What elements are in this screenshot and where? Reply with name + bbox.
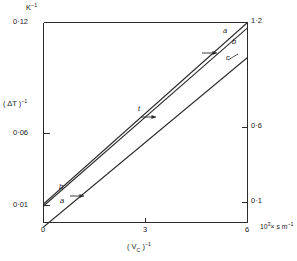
left-axis-ticks [44,23,50,206]
bottom-axis-ticks [44,218,248,223]
series-label-c-top: c [226,54,230,62]
bottom-unit-base: 10 [260,223,268,230]
bottom-tick-label-3: 3 [143,226,147,234]
top-unit-exp: −1 [31,2,37,8]
series-line-c [44,58,248,228]
series-label-mid: t [138,105,140,113]
series-label-a-top: a [223,27,227,35]
top-unit-label: K−1 [26,4,37,12]
series-label-a-low: a [60,197,64,205]
figure-chart-container: K−1 0·12 0·06 0·01 ( ΔT )−1 1·2 0·6 0·1 … [0,0,297,261]
bottom-unit-rest: × s m [271,223,288,230]
left-axis-title-exp: −1 [21,98,27,104]
bottom-axis-title: ( VC )−1 [127,243,151,251]
left-tick-label-001: 0·01 [13,201,28,209]
bottom-unit-label: 103× s m−1 [260,224,294,231]
bottom-tick-label-6: 6 [245,226,249,234]
bottom-tick-label-0: 0 [41,226,45,234]
series-line-a [44,23,248,205]
left-axis-title-open: ( ΔT ) [3,99,21,108]
left-tick-label-012: 0·12 [13,18,28,26]
chart-svg [0,0,297,261]
right-tick-label-12: 1·2 [251,17,262,25]
right-tick-label-01: 0·1 [251,197,262,205]
series-label-b-low: b [59,183,63,191]
series-label-b-top: b [232,38,236,46]
bottom-axis-title-exp: −1 [145,241,151,247]
left-axis-title: ( ΔT )−1 [3,100,27,108]
right-axis-ticks [242,23,248,203]
bottom-axis-title-open: ( V [127,242,137,251]
right-tick-label-06: 0·6 [251,122,262,130]
bottom-unit-rest-exp: −1 [287,221,293,227]
plot-frame [44,23,248,223]
left-tick-label-006: 0·06 [13,129,28,137]
